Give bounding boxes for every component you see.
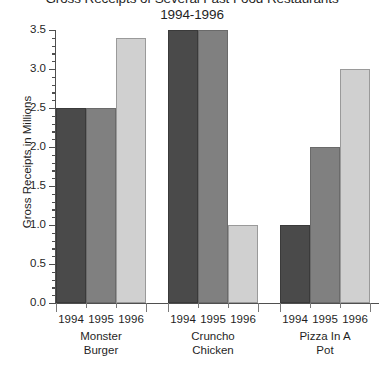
bar[interactable] [228,225,258,303]
bar[interactable] [198,30,228,303]
y-axis-tick-label: 1.0 [30,219,46,231]
x-axis-group-label-line2: Burger [80,344,122,358]
x-axis-year-label: 1996 [342,313,368,325]
y-axis-tick [49,30,56,31]
x-axis-year-label: 1994 [170,313,196,325]
y-axis-tick-label: 1.5 [30,180,46,192]
y-axis-tick [49,303,56,304]
chart-title-line2: 1994-1996 [0,7,384,23]
x-axis-minor-tick [86,303,87,308]
x-axis-group-label: Pizza In APot [299,330,350,357]
bar[interactable] [280,225,310,303]
bar-group [56,30,146,303]
x-axis-minor-tick [116,303,117,308]
y-axis-tick [49,147,56,148]
y-axis-tick-label: 3.0 [30,63,46,75]
x-axis-group-tick [56,303,57,312]
plot-area: 0.00.51.01.52.02.53.03.5199419951996Mons… [56,30,378,303]
bar[interactable] [116,38,146,303]
y-axis-tick [49,225,56,226]
x-axis-year-label: 1996 [230,313,256,325]
y-axis-tick [49,186,56,187]
y-axis-tick [49,108,56,109]
x-axis-year-label: 1995 [200,313,226,325]
x-axis-minor-tick [228,303,229,308]
chart-title: Gross Receipts of Several Fast Food Rest… [0,0,384,23]
y-axis-tick [49,69,56,70]
x-axis-group-tick [168,303,169,312]
chart-title-line1: Gross Receipts of Several Fast Food Rest… [45,0,338,6]
y-axis-tick-label: 0.5 [30,258,46,270]
y-axis-tick-label: 2.0 [30,141,46,153]
y-axis-label: Gross Receipts in Millions [21,42,33,282]
y-axis-tick-label: 2.5 [30,102,46,114]
bar[interactable] [168,30,198,303]
bar-chart: Gross Receipts of Several Fast Food Rest… [0,0,384,366]
x-axis-group-label-line1: Pizza In A [299,330,350,342]
x-axis-year-label: 1994 [58,313,84,325]
y-axis-tick [49,264,56,265]
x-axis-group-label-line2: Pot [299,344,350,358]
x-axis-group-label-line1: Monster [80,330,122,342]
bar[interactable] [310,147,340,303]
bar-group [168,30,258,303]
x-axis-group-tick [370,303,371,312]
bar[interactable] [56,108,86,303]
x-axis-minor-tick [310,303,311,308]
bar[interactable] [340,69,370,303]
x-axis-line [55,303,379,304]
y-axis-tick-label: 3.5 [30,24,46,36]
x-axis-group-label: CrunchoChicken [191,330,234,357]
x-axis-group-label-line2: Chicken [191,344,234,358]
x-axis-year-label: 1995 [88,313,114,325]
x-axis-year-label: 1996 [118,313,144,325]
y-axis-tick-label: 0.0 [30,297,46,309]
x-axis-minor-tick [340,303,341,308]
bar[interactable] [86,108,116,303]
x-axis-group-tick [146,303,147,312]
bar-group [280,30,370,303]
x-axis-group-label-line1: Cruncho [191,330,234,342]
x-axis-minor-tick [198,303,199,308]
x-axis-group-label: MonsterBurger [80,330,122,357]
x-axis-year-label: 1995 [312,313,338,325]
x-axis-group-tick [280,303,281,312]
x-axis-year-label: 1994 [282,313,308,325]
x-axis-group-tick [258,303,259,312]
